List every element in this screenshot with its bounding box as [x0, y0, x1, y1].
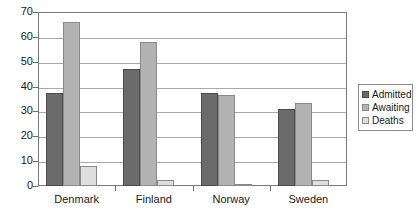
x-tick-label: Norway — [193, 193, 270, 206]
bar — [46, 93, 63, 186]
legend-item: Awaiting — [362, 101, 409, 114]
y-tick-label: 10 — [3, 155, 33, 166]
bar — [201, 93, 218, 186]
x-tick-label: Denmark — [38, 193, 115, 206]
bar-group — [193, 12, 270, 186]
y-axis-labels: 010203040506070 — [0, 12, 33, 186]
legend-swatch-icon — [362, 91, 369, 98]
bar-group — [38, 12, 115, 186]
bar-group — [115, 12, 192, 186]
bar-chart: 010203040506070 DenmarkFinlandNorwaySwed… — [0, 0, 420, 220]
bar — [278, 109, 295, 186]
legend-label: Awaiting — [372, 102, 410, 113]
legend-item: Admitted — [362, 88, 409, 101]
y-tick-label: 50 — [3, 56, 33, 67]
bar — [63, 22, 80, 186]
y-tick-label: 60 — [3, 31, 33, 42]
legend-item: Deaths — [362, 114, 409, 127]
y-tick-label: 40 — [3, 81, 33, 92]
legend-swatch-icon — [362, 117, 369, 124]
bar — [123, 69, 140, 186]
x-tick-mark — [270, 186, 271, 191]
y-tick-label: 70 — [3, 6, 33, 17]
x-tick-label: Finland — [115, 193, 192, 206]
legend-label: Admitted — [372, 89, 411, 100]
x-tick-label: Sweden — [270, 193, 347, 206]
bar — [295, 103, 312, 186]
y-tick-label: 0 — [3, 180, 33, 191]
y-tick-label: 20 — [3, 130, 33, 141]
x-tick-mark — [115, 186, 116, 191]
x-axis-tick-marks — [38, 186, 347, 192]
x-tick-mark — [193, 186, 194, 191]
y-tick-label: 30 — [3, 105, 33, 116]
bar-group — [270, 12, 347, 186]
bar — [80, 166, 97, 186]
bars-layer — [38, 12, 347, 186]
x-axis-labels: DenmarkFinlandNorwaySweden — [38, 193, 347, 209]
bar — [140, 42, 157, 186]
legend-swatch-icon — [362, 104, 369, 111]
chart-legend: AdmittedAwaitingDeaths — [358, 84, 413, 131]
bar — [218, 95, 235, 186]
legend-label: Deaths — [372, 115, 404, 126]
